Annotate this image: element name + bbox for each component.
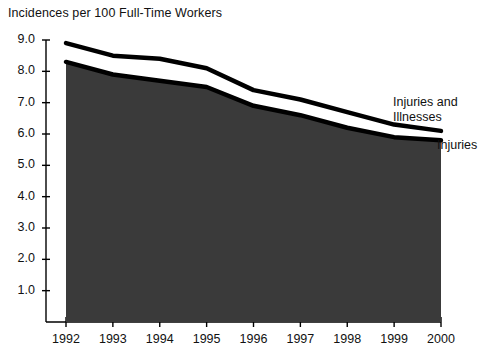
series-group [66,43,441,322]
x-axis-tick-label: 1997 [278,332,322,346]
chart-plot-area [0,0,491,355]
x-axis-tick-label: 1998 [325,332,369,346]
series-label-injuries: Injuries [437,138,477,153]
y-axis-tick-label: 9.0 [7,32,35,46]
series-label-injuries-and-illnesses: Injuries and Illnesses [393,95,458,125]
y-axis-tick-label: 2.0 [7,251,35,265]
y-axis-tick-label: 1.0 [7,283,35,297]
y-axis-tick-label: 6.0 [7,126,35,140]
series-label-line-1: Injuries and [393,95,458,110]
y-axis-tick-label: 3.0 [7,220,35,234]
y-axis-tick-label: 8.0 [7,63,35,77]
y-axis-tick-label: 5.0 [7,157,35,171]
x-axis-tick-label: 2000 [419,332,463,346]
y-axis-tick-label: 7.0 [7,95,35,109]
x-axis-tick-label: 1993 [91,332,135,346]
y-axis-tick-label: 4.0 [7,189,35,203]
series-label-line-2: Illnesses [393,110,458,125]
x-axis-tick-label: 1992 [44,332,88,346]
chart-container: Incidences per 100 Full-Time Workers 1.0… [0,0,491,355]
x-axis-tick-label: 1999 [372,332,416,346]
series-area-injuries [66,62,441,322]
x-axis-tick-label: 1995 [185,332,229,346]
x-axis-tick-label: 1994 [138,332,182,346]
x-axis-tick-label: 1996 [232,332,276,346]
